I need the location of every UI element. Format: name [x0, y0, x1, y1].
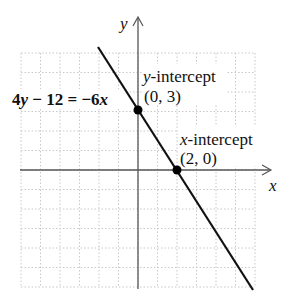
x-axis [20, 165, 271, 175]
y-axis-label: y [118, 14, 128, 33]
y-intercept-coords: (0, 3) [144, 87, 181, 106]
y-intercept-point [134, 106, 143, 115]
x-intercept-label: x-intercept [179, 130, 253, 149]
x-intercept-coords: (2, 0) [180, 149, 217, 168]
x-axis-label: x [268, 176, 277, 195]
x-intercept-point [173, 166, 182, 175]
y-intercept-label: y-intercept [141, 67, 216, 86]
graph-canvas: x y 4y − 12 = −6x y-intercept (0, 3) x-i… [0, 0, 291, 294]
equation-label: 4y − 12 = −6x [12, 90, 109, 109]
